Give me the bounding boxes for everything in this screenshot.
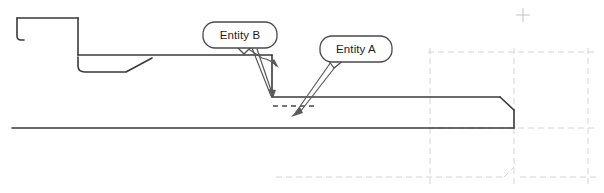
origin-cross-marker (516, 8, 530, 22)
callout-entity-b-label: Entity B (220, 29, 261, 41)
profile-pocket (78, 57, 152, 72)
callout-entity-a[interactable]: Entity A (320, 36, 392, 68)
entity-a-leaders (296, 62, 339, 112)
callout-entity-a-label: Entity A (336, 43, 376, 55)
entity-a-arrowhead (291, 107, 303, 117)
entity-b-leader-straight-2 (257, 49, 273, 96)
profile-left-tab (17, 18, 24, 40)
entity-a-leader-2 (300, 62, 339, 112)
technical-drawing-svg[interactable]: Entity B Entity A (0, 0, 604, 193)
grid-chamfer-segment (504, 167, 514, 177)
drawing-canvas[interactable]: Entity B Entity A (0, 0, 604, 193)
callout-entity-b[interactable]: Entity B (203, 22, 277, 54)
construction-grid (276, 48, 596, 186)
profile-right-chamfer (500, 97, 514, 110)
entity-a-leader-1 (296, 62, 331, 112)
entity-a-arrowheads (291, 107, 303, 117)
